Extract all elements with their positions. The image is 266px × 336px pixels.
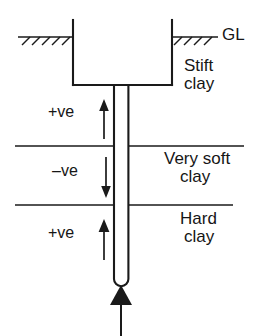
negative-friction-arrow-middle-icon: [101, 157, 111, 198]
pile-cap: [73, 20, 172, 85]
positive-friction-arrow-upper-icon: [99, 99, 109, 139]
soil-layer-label-hard-clay-line1: Hard: [180, 210, 217, 228]
pile-soil-diagram: GL Stift clay Very soft clay Hard clay +…: [0, 0, 266, 336]
ground-hatch-left-icon: [22, 37, 70, 45]
soil-layer-label-very-soft-clay: Very soft clay: [164, 150, 230, 186]
ground-hatch-right-icon: [174, 37, 212, 45]
friction-label-positive-lower: +ve: [48, 225, 74, 242]
soil-layer-label-stiff-clay-line2: clay: [184, 75, 214, 93]
friction-label-negative-middle: –ve: [52, 163, 78, 180]
soil-layer-label-hard-clay: Hard clay: [180, 210, 217, 246]
soil-layer-label-stiff-clay-line1: Stift: [184, 57, 214, 75]
soil-layer-label-very-soft-clay-line2: clay: [164, 168, 230, 186]
base-resistance-arrow-icon: [110, 285, 132, 336]
positive-friction-arrow-lower-icon: [99, 219, 110, 260]
soil-layer-label-stiff-clay: Stift clay: [184, 57, 214, 93]
friction-label-positive-upper: +ve: [48, 104, 74, 121]
soil-layer-label-hard-clay-line2: clay: [180, 228, 217, 246]
ground-level-label: GL: [222, 26, 245, 44]
soil-layer-label-very-soft-clay-line1: Very soft: [164, 150, 230, 168]
pile-shaft: [114, 85, 128, 286]
